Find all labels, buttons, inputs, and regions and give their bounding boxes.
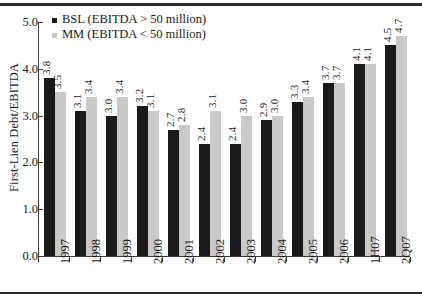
bar-group: 2.43.0 xyxy=(230,22,252,256)
bar-bsl[interactable] xyxy=(261,120,272,256)
bar-bsl[interactable] xyxy=(106,116,117,256)
bar-group: 3.83.5 xyxy=(44,22,66,256)
bar-group: 4.54.7 xyxy=(385,22,407,256)
bar-value-label: 2.4 xyxy=(196,126,207,140)
bar-bsl[interactable] xyxy=(323,83,334,256)
y-axis-tick-label-wrap: 0.0 xyxy=(0,256,38,257)
bar-group: 2.43.1 xyxy=(199,22,221,256)
bar-group: 3.13.4 xyxy=(75,22,97,256)
y-axis-tick-label: 3.0 xyxy=(6,110,38,123)
top-divider xyxy=(0,3,422,6)
bar-value-label: 2.9 xyxy=(258,103,269,117)
bar-value-label: 2.8 xyxy=(176,108,187,122)
bar-value-label: 3.7 xyxy=(320,65,331,79)
y-axis-title: First-Lien Debt/EBITDA xyxy=(7,28,22,228)
bar-group: 3.73.7 xyxy=(323,22,345,256)
bar-group: 3.33.4 xyxy=(292,22,314,256)
x-axis-tick-label: 2001 xyxy=(183,239,196,264)
x-axis-tick-label: 1H07 xyxy=(369,236,382,264)
bar-value-label: 3.3 xyxy=(289,84,300,98)
bar-mm[interactable] xyxy=(86,97,97,256)
bar-group: 3.03.4 xyxy=(106,22,128,256)
bar-mm[interactable] xyxy=(117,97,128,256)
bar-value-label: 3.8 xyxy=(41,61,52,75)
bar-value-label: 3.0 xyxy=(269,98,280,112)
x-axis-tick-label: 2006 xyxy=(338,239,351,264)
y-axis-tick-label: 4.0 xyxy=(6,63,38,76)
bar-value-label: 4.1 xyxy=(362,47,373,61)
bar-value-label: 3.1 xyxy=(72,94,83,108)
y-axis-tick-label-wrap: 4.0 xyxy=(0,69,38,70)
bar-mm[interactable] xyxy=(303,97,314,256)
bar-mm[interactable] xyxy=(55,92,66,256)
bar-bsl[interactable] xyxy=(199,144,210,256)
bar-group: 4.14.1 xyxy=(354,22,376,256)
bar-value-label: 4.7 xyxy=(393,19,404,33)
bar-group: 2.72.8 xyxy=(168,22,190,256)
bar-value-label: 3.1 xyxy=(207,94,218,108)
y-axis-tick-label-wrap: 3.0 xyxy=(0,116,38,117)
x-axis-tick-label: 2005 xyxy=(307,239,320,264)
bar-value-label: 3.5 xyxy=(52,75,63,89)
bar-bsl[interactable] xyxy=(292,102,303,256)
bar-mm[interactable] xyxy=(272,116,283,256)
bar-value-label: 3.7 xyxy=(331,65,342,79)
y-axis-tick-label-wrap: 1.0 xyxy=(0,209,38,210)
x-axis-tick-label: 2002 xyxy=(214,239,227,264)
bar-value-label: 4.1 xyxy=(351,47,362,61)
x-axis-tick-label: 1999 xyxy=(121,239,134,264)
y-axis-tick-label-wrap: 2.0 xyxy=(0,162,38,163)
bar-bsl[interactable] xyxy=(385,45,396,256)
bar-mm[interactable] xyxy=(210,111,221,256)
y-axis-tick-label-wrap: 5.0 xyxy=(0,22,38,23)
bar-value-label: 3.4 xyxy=(114,80,125,94)
plot-area: 3.83.53.13.43.03.43.23.12.72.82.43.12.43… xyxy=(38,22,410,256)
bar-bsl[interactable] xyxy=(354,64,365,256)
bar-bsl[interactable] xyxy=(44,78,55,256)
bottom-divider xyxy=(0,292,422,294)
bar-mm[interactable] xyxy=(396,36,407,256)
x-axis-tick-label: 1998 xyxy=(90,239,103,264)
bar-bsl[interactable] xyxy=(137,106,148,256)
x-axis-tick-label: 1997 xyxy=(59,239,72,264)
y-axis-tick-label: 5.0 xyxy=(6,16,38,29)
bar-value-label: 3.0 xyxy=(103,98,114,112)
bar-value-label: 3.4 xyxy=(300,80,311,94)
x-axis-tick-label: 2Q07 xyxy=(400,236,413,264)
y-axis-tick-label: 2.0 xyxy=(6,156,38,169)
bar-mm[interactable] xyxy=(365,64,376,256)
x-axis-tick xyxy=(38,257,39,262)
y-axis-tick-label: 1.0 xyxy=(6,203,38,216)
y-axis-tick-label: 0.0 xyxy=(6,250,38,263)
bar-value-label: 3.2 xyxy=(134,89,145,103)
chart-figure: First-Lien Debt/EBITDA 0.01.02.03.04.05.… xyxy=(0,0,422,303)
bar-value-label: 3.4 xyxy=(83,80,94,94)
bar-value-label: 2.7 xyxy=(165,112,176,126)
x-axis-tick-label: 2004 xyxy=(276,239,289,264)
bar-bsl[interactable] xyxy=(168,130,179,256)
x-axis-tick-label: 2000 xyxy=(152,239,165,264)
bar-bsl[interactable] xyxy=(75,111,86,256)
bar-value-label: 4.5 xyxy=(382,28,393,42)
bar-mm[interactable] xyxy=(334,83,345,256)
bar-mm[interactable] xyxy=(148,111,159,256)
bar-value-label: 3.0 xyxy=(238,98,249,112)
bar-group: 2.93.0 xyxy=(261,22,283,256)
x-axis-tick-label: 2003 xyxy=(245,239,258,264)
bar-mm[interactable] xyxy=(241,116,252,256)
bar-value-label: 2.4 xyxy=(227,126,238,140)
bar-group: 3.23.1 xyxy=(137,22,159,256)
bar-value-label: 3.1 xyxy=(145,94,156,108)
bar-mm[interactable] xyxy=(179,125,190,256)
bar-bsl[interactable] xyxy=(230,144,241,256)
